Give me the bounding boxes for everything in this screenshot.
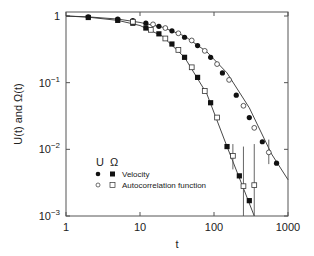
filled-square-marker xyxy=(182,55,187,60)
open-square-marker xyxy=(215,115,220,120)
filled-square-marker xyxy=(115,18,120,23)
y-tick-label: 10−2 xyxy=(39,141,61,155)
filled-square-marker xyxy=(208,100,213,105)
filled-circle-marker xyxy=(234,93,239,98)
legend-filled-square-icon xyxy=(110,172,115,177)
log-log-plot: 1101001000110−110−210−3tU(t) and Ω(t)UΩV… xyxy=(0,0,314,256)
open-circle-marker xyxy=(163,26,168,31)
filled-circle-marker xyxy=(156,24,161,29)
filled-circle-marker xyxy=(220,70,225,75)
open-square-marker xyxy=(241,184,246,189)
x-tick-label: 1 xyxy=(63,221,69,233)
x-tick-label: 1000 xyxy=(276,221,300,233)
filled-square-marker xyxy=(237,173,242,178)
open-circle-marker xyxy=(176,31,181,36)
filled-square-marker xyxy=(195,75,200,80)
filled-square-marker xyxy=(169,41,174,46)
filled-circle-marker xyxy=(195,43,200,48)
y-tick-label: 10−3 xyxy=(39,208,61,222)
open-circle-marker xyxy=(241,103,246,108)
legend-header-u: U xyxy=(96,156,104,168)
open-circle-marker xyxy=(189,38,194,43)
filled-circle-marker xyxy=(260,139,265,144)
filled-circle-marker xyxy=(182,35,187,40)
open-square-marker xyxy=(148,27,153,32)
open-circle-marker xyxy=(202,48,207,53)
open-square-marker xyxy=(252,183,257,188)
filled-square-marker xyxy=(143,25,148,30)
x-axis-label: t xyxy=(175,238,178,250)
y-tick-label: 10−1 xyxy=(39,75,61,89)
open-square-marker xyxy=(163,36,168,41)
legend-header-omega: Ω xyxy=(110,156,118,168)
legend-entry-autocorrelation: Autocorrelation function xyxy=(122,181,206,190)
legend-open-circle-icon xyxy=(96,183,100,187)
y-tick-label: 1 xyxy=(54,10,60,22)
open-circle-marker xyxy=(215,62,220,67)
legend-open-square-icon xyxy=(110,183,115,188)
legend-filled-circle-icon xyxy=(96,172,101,177)
filled-square-marker xyxy=(247,198,252,203)
filled-circle-marker xyxy=(143,21,148,26)
chart-container: 1101001000110−110−210−3tU(t) and Ω(t)UΩV… xyxy=(0,0,314,256)
filled-circle-marker xyxy=(247,115,252,120)
open-circle-marker xyxy=(151,22,156,27)
filled-square-marker xyxy=(86,15,91,20)
legend-entry-velocity: Velocity xyxy=(122,170,150,179)
filled-square-marker xyxy=(224,144,229,149)
open-square-marker xyxy=(130,19,135,24)
open-square-marker xyxy=(202,89,207,94)
x-tick-label: 100 xyxy=(205,221,223,233)
open-circle-marker xyxy=(227,78,232,83)
open-square-marker xyxy=(176,48,181,53)
filled-circle-marker xyxy=(274,161,279,166)
open-square-marker xyxy=(230,153,235,158)
y-axis-label: U(t) and Ω(t) xyxy=(12,83,24,144)
x-tick-label: 10 xyxy=(134,221,146,233)
open-circle-marker xyxy=(252,125,257,130)
filled-circle-marker xyxy=(169,28,174,33)
filled-circle-marker xyxy=(208,55,213,60)
filled-square-marker xyxy=(156,31,161,36)
open-square-marker xyxy=(189,65,194,70)
open-circle-marker xyxy=(266,150,271,155)
